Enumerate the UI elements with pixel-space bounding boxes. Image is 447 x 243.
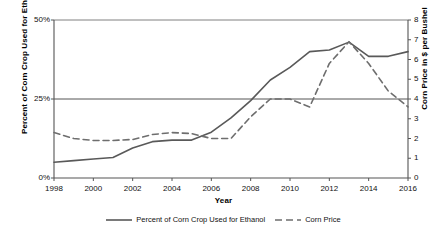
axis-ticks xyxy=(51,20,411,181)
y-tick-label-left-1: 25% xyxy=(16,94,50,103)
series-line-corn-price xyxy=(54,42,408,141)
legend-item-corn-price: Corn Price xyxy=(275,215,340,224)
series-line-ethanol-percent xyxy=(54,42,408,162)
legend-swatch-dashed-icon xyxy=(275,216,301,224)
x-tick-label-0: 1998 xyxy=(36,184,72,193)
x-tick-label-4: 2006 xyxy=(193,184,229,193)
x-tick-label-8: 2014 xyxy=(351,184,387,193)
gridlines xyxy=(54,20,408,99)
x-tick-label-2: 2002 xyxy=(115,184,151,193)
y-tick-label-right-4: 4 xyxy=(414,94,432,103)
legend-label-corn-price: Corn Price xyxy=(305,215,340,224)
legend-item-ethanol-percent: Percent of Corn Crop Used for Ethanol xyxy=(106,215,265,224)
y-tick-label-right-6: 6 xyxy=(414,55,432,64)
legend-label-ethanol-percent: Percent of Corn Crop Used for Ethanol xyxy=(136,215,265,224)
x-tick-label-5: 2008 xyxy=(233,184,269,193)
plot-area xyxy=(0,0,447,243)
x-tick-label-1: 2000 xyxy=(75,184,111,193)
x-tick-label-6: 2010 xyxy=(272,184,308,193)
y-tick-label-left-0: 0% xyxy=(16,173,50,182)
x-tick-label-7: 2012 xyxy=(311,184,347,193)
y-tick-label-right-0: 0 xyxy=(414,173,432,182)
y-tick-label-right-7: 7 xyxy=(414,35,432,44)
y-tick-label-right-8: 8 xyxy=(414,15,432,24)
y-tick-label-right-5: 5 xyxy=(414,74,432,83)
x-tick-label-9: 2016 xyxy=(390,184,426,193)
chart-container: Percent of Corn Crop Used for Ethanol Co… xyxy=(0,0,447,243)
chart-legend: Percent of Corn Crop Used for Ethanol Co… xyxy=(0,215,447,224)
y-tick-label-right-2: 2 xyxy=(414,134,432,143)
x-tick-label-3: 2004 xyxy=(154,184,190,193)
y-tick-label-left-2: 50% xyxy=(16,15,50,24)
y-tick-label-right-3: 3 xyxy=(414,114,432,123)
legend-swatch-solid-icon xyxy=(106,216,132,224)
y-tick-label-right-1: 1 xyxy=(414,153,432,162)
